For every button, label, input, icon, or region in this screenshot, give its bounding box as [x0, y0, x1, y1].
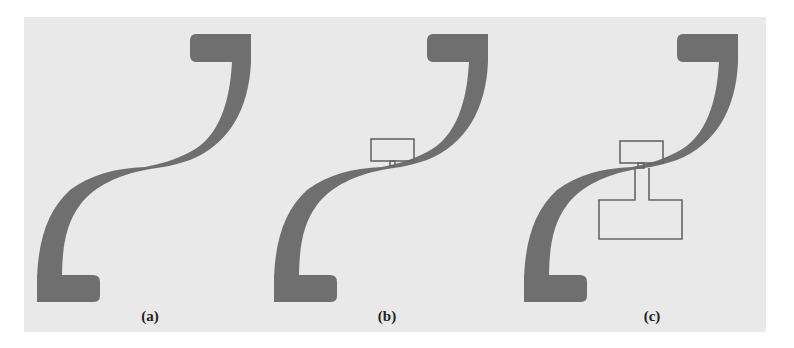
panel-a-trace — [37, 34, 251, 302]
panel-b-trace — [274, 34, 488, 302]
panel-label-b: (b) — [378, 308, 396, 325]
panel-c-trace — [524, 34, 738, 302]
figure-canvas — [0, 0, 794, 348]
panel-label-c: (c) — [644, 308, 661, 325]
panel-c-large-t-stub — [599, 168, 682, 239]
panel-label-a: (a) — [141, 308, 159, 325]
